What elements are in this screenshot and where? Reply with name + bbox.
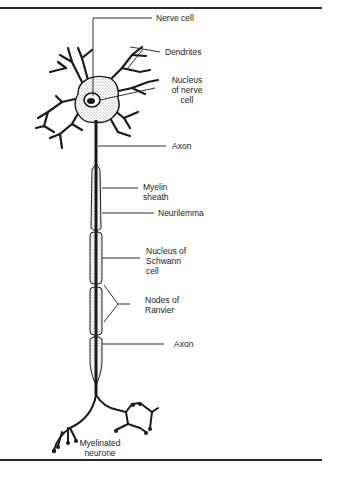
label-axon-top: Axon xyxy=(172,141,191,151)
neurone-diagram xyxy=(0,0,337,480)
figure-caption: Myelinated neurone xyxy=(70,438,130,458)
label-nucleus-of-schwann-cell: Nucleus of Schwann cell xyxy=(146,246,186,276)
label-axon-bottom: Axon xyxy=(174,339,193,349)
label-nodes-of-ranvier: Nodes of Ranvier xyxy=(145,295,179,315)
label-dendrites: Dendrites xyxy=(165,47,201,57)
label-myelin-sheath: Myelin sheath xyxy=(143,182,169,202)
label-neurilemma: Neurilemma xyxy=(158,208,204,218)
label-nucleus-of-nerve-cell: Nucleus of nerve cell xyxy=(165,75,209,105)
label-nerve-cell: Nerve cell xyxy=(156,13,194,23)
